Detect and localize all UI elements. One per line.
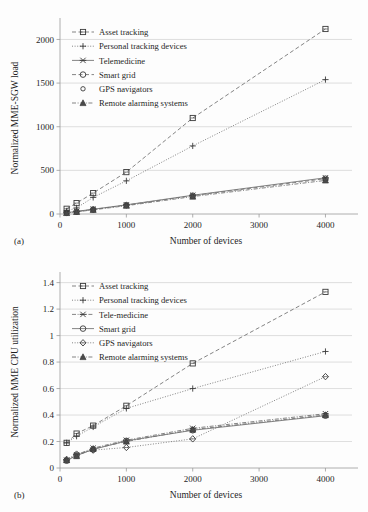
x-tick-label: 0: [58, 220, 63, 230]
series-line: [67, 416, 326, 461]
y-axis-title: Normalized MME CPU utilization: [10, 306, 20, 438]
legend-entry-tele-medicine: Tele-medicine: [72, 310, 148, 320]
legend-entry-smart-grid: Smart grid: [72, 70, 136, 80]
x-tick-label: 4000: [316, 474, 335, 484]
legend-entry-remote-alarming-systems: Remote alarming systems: [72, 352, 188, 362]
y-tick-label: 0: [50, 463, 55, 473]
x-axis-title: Number of devices: [170, 490, 243, 500]
series-personal-tracking-devices: [64, 77, 329, 215]
y-tick-label: 1.2: [43, 304, 54, 314]
y-tick-label: 1.4: [43, 278, 55, 288]
legend-entry-telemedicine: Telemedicine: [72, 56, 145, 66]
legend-entry-smart-grid: Smart grid: [72, 324, 136, 334]
legend-label: Asset tracking: [99, 27, 149, 37]
y-tick-label: 0: [50, 209, 55, 219]
legend-label: Asset tracking: [99, 281, 149, 291]
legend-label: Telemedicine: [99, 56, 145, 66]
series-line: [67, 179, 326, 213]
series-smart-grid: [64, 413, 328, 464]
marker-circle-small: [81, 87, 85, 91]
series-line: [67, 415, 326, 460]
panel-label: (b): [14, 490, 25, 500]
figure-page: 050010001500200001000200030004000Number …: [0, 0, 368, 512]
chart-panel-b: 00.20.40.60.811.21.401000200030004000Num…: [0, 258, 368, 508]
legend-entry-remote-alarming-systems: Remote alarming systems: [72, 98, 188, 108]
panel-label: (a): [14, 236, 24, 246]
legend-entry-gps-navigators: GPS navigators: [81, 84, 154, 94]
legend-label: Tele-medicine: [99, 310, 148, 320]
y-tick-label: 0.8: [43, 357, 55, 367]
chart-panel-a: 050010001500200001000200030004000Number …: [0, 4, 368, 254]
legend-label: GPS navigators: [99, 84, 153, 94]
y-axis-title: Normalized MME-SGW load: [10, 61, 20, 174]
x-tick-label: 1000: [117, 474, 136, 484]
legend-label: GPS navigators: [99, 338, 153, 348]
x-tick-label: 4000: [316, 220, 335, 230]
x-tick-label: 3000: [250, 474, 269, 484]
legend-entry-asset-tracking: Asset tracking: [72, 27, 149, 37]
series-line: [67, 414, 326, 460]
y-tick-label: 1500: [36, 78, 55, 88]
series-personal-tracking-devices: [64, 348, 329, 446]
y-tick-label: 1000: [36, 122, 55, 132]
series-line: [67, 180, 326, 213]
legend-label: Personal tracking devices: [99, 295, 187, 305]
legend-entry-personal-tracking-devices: Personal tracking devices: [72, 295, 187, 305]
y-tick-label: 2000: [36, 35, 55, 45]
x-tick-label: 2000: [184, 474, 203, 484]
series-smart-grid: [64, 176, 328, 216]
y-tick-label: 0.6: [43, 384, 55, 394]
legend-label: Smart grid: [99, 70, 136, 80]
y-tick-label: 500: [41, 165, 55, 175]
x-tick-label: 3000: [250, 220, 269, 230]
legend-label: Personal tracking devices: [99, 41, 187, 51]
chart-b-svg: 00.20.40.60.811.21.401000200030004000Num…: [0, 258, 368, 508]
legend-label: Remote alarming systems: [99, 352, 188, 362]
legend-label: Remote alarming systems: [99, 98, 188, 108]
legend-entry-gps-navigators: GPS navigators: [72, 338, 153, 348]
x-axis-title: Number of devices: [170, 236, 243, 246]
legend-label: Smart grid: [99, 324, 136, 334]
y-tick-label: 1: [50, 331, 55, 341]
x-tick-label: 2000: [184, 220, 203, 230]
legend-entry-personal-tracking-devices: Personal tracking devices: [72, 41, 187, 51]
y-tick-label: 0.4: [43, 410, 55, 420]
marker-triangle: [322, 412, 328, 418]
x-tick-label: 1000: [117, 220, 136, 230]
x-tick-label: 0: [58, 474, 63, 484]
chart-a-svg: 050010001500200001000200030004000Number …: [0, 4, 368, 254]
y-tick-label: 0.2: [43, 437, 54, 447]
